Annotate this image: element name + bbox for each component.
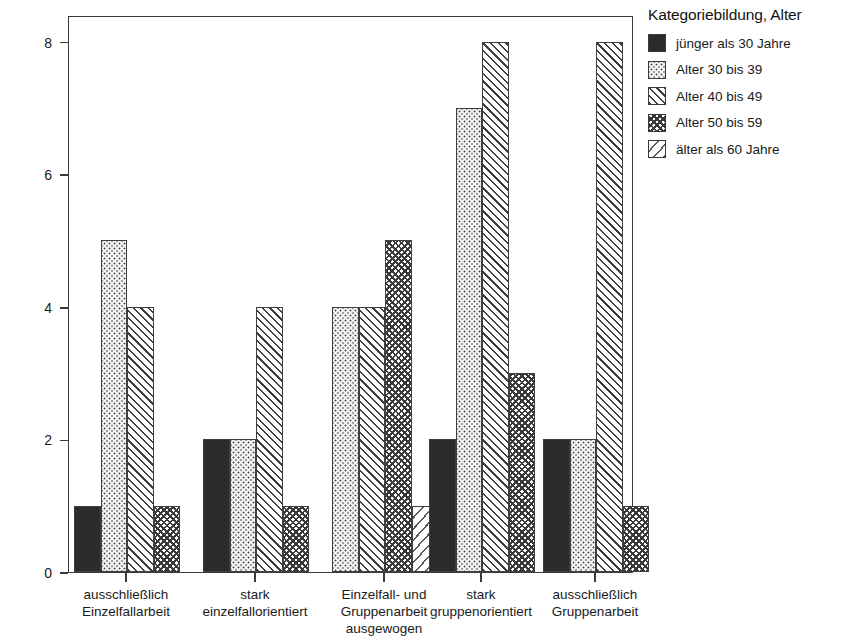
bar <box>543 439 570 572</box>
bar <box>385 240 412 572</box>
bar <box>230 439 257 572</box>
legend-swatch-icon <box>648 34 666 52</box>
legend-item-label: Alter 40 bis 49 <box>676 89 762 104</box>
y-axis-tick-label: 6 <box>0 167 52 183</box>
x-axis-tick <box>383 573 385 582</box>
legend-items: jünger als 30 JahreAlter 30 bis 39Alter … <box>648 33 840 159</box>
x-axis-tick-label: ausschließlichEinzelfallarbeit <box>51 586 201 620</box>
y-axis-tick <box>60 440 68 442</box>
x-axis-tick-label-line: ausschließlich <box>51 586 201 603</box>
x-axis-tick-label-line: Einzelfallarbeit <box>51 603 201 620</box>
legend-swatch-icon <box>648 87 666 105</box>
bar <box>256 307 283 572</box>
bar <box>127 307 154 572</box>
y-axis-tick-label: 0 <box>0 565 52 581</box>
y-axis-tick <box>60 42 68 44</box>
bar <box>482 42 509 572</box>
y-axis-tick <box>60 307 68 309</box>
legend-swatch-icon <box>648 140 666 158</box>
x-axis-tick-label: ausschließlichGruppenarbeit <box>520 586 670 620</box>
legend-swatch-icon <box>648 114 666 132</box>
y-axis-title-text: Häufigkeit <box>0 0 16 22</box>
legend-item-label: jünger als 30 Jahre <box>676 36 791 51</box>
x-axis-tick-label-line: stark <box>180 586 330 603</box>
legend-item: Alter 50 bis 59 <box>648 113 840 133</box>
x-axis-tick <box>480 573 482 582</box>
legend-item: jünger als 30 Jahre <box>648 33 840 53</box>
bar <box>359 307 386 572</box>
bar <box>154 506 181 572</box>
x-axis-tick <box>254 573 256 582</box>
legend: Kategoriebildung, Alter jünger als 30 Ja… <box>648 6 840 166</box>
bar <box>332 307 359 572</box>
x-axis-tick-label-line: einzelfallorientiert <box>180 603 330 620</box>
x-axis-tick-label-line: ausschließlich <box>520 586 670 603</box>
x-axis-tick-label-line: ausgewogen <box>309 620 459 637</box>
x-axis-tick <box>125 573 127 582</box>
legend-item: älter als 60 Jahre <box>648 139 840 159</box>
legend-item-label: Alter 50 bis 59 <box>676 115 762 130</box>
bar <box>509 373 536 572</box>
plot-area <box>68 16 633 573</box>
y-axis-tick <box>60 174 68 176</box>
legend-item-label: älter als 60 Jahre <box>676 142 780 157</box>
y-axis-tick <box>60 572 68 574</box>
bar <box>570 439 597 572</box>
y-axis-tick-label: 4 <box>0 300 52 316</box>
bar <box>101 240 128 572</box>
bar <box>623 506 650 572</box>
legend-item: Alter 30 bis 39 <box>648 60 840 80</box>
legend-item-label: Alter 30 bis 39 <box>676 62 762 77</box>
x-axis-tick-label: starkeinzelfallorientiert <box>180 586 330 620</box>
bars-layer <box>69 17 632 572</box>
bar <box>596 42 623 572</box>
legend-item: Alter 40 bis 49 <box>648 86 840 106</box>
bar <box>283 506 310 572</box>
x-axis-tick <box>594 573 596 582</box>
y-axis-tick-label: 2 <box>0 432 52 448</box>
bar <box>203 439 230 572</box>
y-axis-title: Häufigkeit <box>0 0 16 22</box>
bar <box>456 108 483 572</box>
bar <box>429 439 456 572</box>
legend-swatch-icon <box>648 61 666 79</box>
y-axis-tick-label: 8 <box>0 35 52 51</box>
bar <box>74 506 101 572</box>
legend-title: Kategoriebildung, Alter <box>648 6 840 24</box>
x-axis-tick-label-line: Gruppenarbeit <box>520 603 670 620</box>
